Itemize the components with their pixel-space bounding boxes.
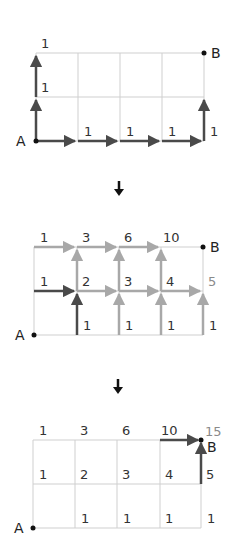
count-label: 1 [40, 230, 48, 245]
dark-arrows [34, 291, 77, 335]
label-a: A [15, 327, 25, 343]
lattice-path-diagram: A B 1 1 1 1 1 1 [0, 0, 238, 559]
label-a: A [14, 520, 24, 536]
count-label: 1 [165, 511, 173, 526]
count-label: 1 [209, 318, 217, 333]
count-label: 1 [168, 124, 176, 139]
result-label: 15 [205, 424, 222, 439]
point-a [31, 526, 36, 531]
count-label: 3 [122, 467, 130, 482]
point-b [202, 51, 207, 56]
label-b: B [211, 45, 221, 61]
count-label: 4 [165, 467, 173, 482]
count-label: 1 [125, 318, 133, 333]
count-label: 5 [206, 467, 214, 482]
count-label: 1 [210, 124, 218, 139]
point-b [201, 245, 206, 250]
label-a: A [16, 133, 26, 149]
count-label: 10 [161, 423, 178, 438]
label-b: B [207, 439, 217, 455]
count-label: 2 [82, 274, 90, 289]
count-label: 3 [82, 230, 90, 245]
count-label: 6 [124, 230, 132, 245]
point-b [199, 438, 204, 443]
down-arrow-icon [114, 181, 124, 196]
count-label: 1 [123, 511, 131, 526]
grid [33, 440, 201, 528]
grid [36, 53, 204, 141]
count-label: 3 [124, 274, 132, 289]
count-label: 1 [83, 318, 91, 333]
count-label: 3 [80, 423, 88, 438]
count-label: 1 [39, 467, 47, 482]
panel-1: A B 1 1 1 1 1 1 [16, 36, 221, 149]
count-label: 10 [163, 230, 180, 245]
count-label: 1 [207, 511, 215, 526]
count-label: 4 [166, 274, 174, 289]
down-arrow-icon [113, 379, 123, 394]
count-label: 1 [81, 511, 89, 526]
count-label: 1 [167, 318, 175, 333]
count-label: 1 [40, 274, 48, 289]
count-label: 2 [80, 467, 88, 482]
label-b: B [210, 239, 220, 255]
count-label: 1 [41, 80, 49, 95]
count-label: 1 [39, 423, 47, 438]
count-label: 1 [41, 36, 49, 51]
panel-3: A B 15 1 3 6 10 1 2 3 4 5 1 1 1 1 [14, 423, 222, 536]
panel-2: A B 1 3 6 10 1 2 3 4 5 1 1 1 1 [15, 230, 220, 343]
point-a [34, 139, 39, 144]
point-a [32, 333, 37, 338]
count-label: 1 [126, 124, 134, 139]
count-label: 1 [84, 124, 92, 139]
count-label: 6 [122, 423, 130, 438]
count-label: 5 [208, 274, 216, 289]
